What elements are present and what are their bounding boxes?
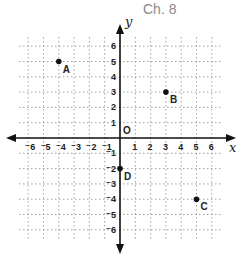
- y-tick-label: ⁻3: [106, 179, 116, 189]
- point-label-b: B: [170, 94, 177, 105]
- x-tick-label: 1: [132, 142, 137, 152]
- x-tick-label: ⁻5: [41, 142, 51, 152]
- point-label-d: D: [124, 171, 131, 182]
- point-label-c: C: [201, 201, 208, 212]
- y-axis-down-arrow-icon: [116, 244, 124, 254]
- x-axis-left-arrow-icon: [6, 134, 16, 142]
- point-b: [163, 89, 169, 95]
- origin-label: O: [123, 125, 131, 136]
- point-a: [56, 59, 62, 65]
- y-tick-label: 6: [111, 41, 116, 51]
- x-tick-label: 3: [163, 142, 168, 152]
- y-tick-label: ⁻2: [106, 164, 116, 174]
- plotted-points: ABCD: [56, 59, 208, 213]
- x-tick-label: ⁻3: [71, 142, 81, 152]
- x-tick-label: ⁻2: [86, 142, 96, 152]
- y-tick-label: 5: [111, 57, 116, 67]
- x-tick-label: 6: [209, 142, 214, 152]
- x-tick-label: ⁻4: [56, 142, 66, 152]
- x-tick-label: 5: [194, 142, 199, 152]
- y-tick-label: ⁻1: [106, 148, 116, 158]
- y-tick-label: ⁻4: [106, 194, 116, 204]
- y-tick-label: 2: [111, 102, 116, 112]
- x-axis-label: x: [229, 140, 237, 155]
- x-tick-label: 2: [148, 142, 153, 152]
- y-axis-up-arrow-icon: [116, 24, 124, 34]
- y-tick-label: ⁻5: [106, 210, 116, 220]
- point-label-a: A: [63, 64, 70, 75]
- coordinate-plane: x y O ⁻6⁻5⁻4⁻3⁻2⁻1123456654321⁻1⁻2⁻3⁻4⁻5…: [0, 0, 245, 274]
- y-tick-label: ⁻6: [106, 225, 116, 235]
- x-tick-label: 4: [178, 142, 183, 152]
- point-d: [117, 166, 123, 172]
- point-c: [194, 196, 200, 202]
- axes: [6, 24, 236, 254]
- y-tick-label: 3: [111, 87, 116, 97]
- y-tick-label: 4: [111, 72, 116, 82]
- y-axis-label: y: [124, 14, 133, 29]
- x-tick-label: ⁻6: [25, 142, 35, 152]
- y-tick-label: 1: [111, 118, 116, 128]
